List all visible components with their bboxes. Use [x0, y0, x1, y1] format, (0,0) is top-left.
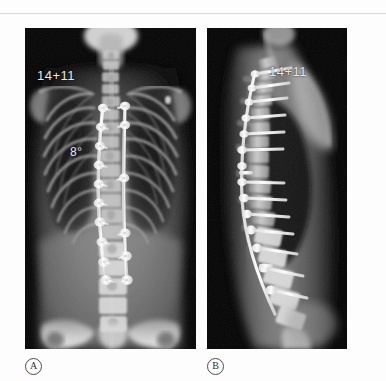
panel-a-caption: A — [25, 358, 42, 375]
figure-container: 14+11 8° — [0, 0, 386, 381]
radiograph-panel-b[interactable]: 14+11 — [207, 28, 347, 349]
top-divider — [0, 13, 386, 14]
xray-image-pa — [25, 28, 196, 349]
xray-image-lateral — [207, 28, 347, 349]
panel-b-caption: B — [207, 358, 224, 375]
radiograph-panel-a[interactable]: 14+11 8° — [25, 28, 196, 349]
